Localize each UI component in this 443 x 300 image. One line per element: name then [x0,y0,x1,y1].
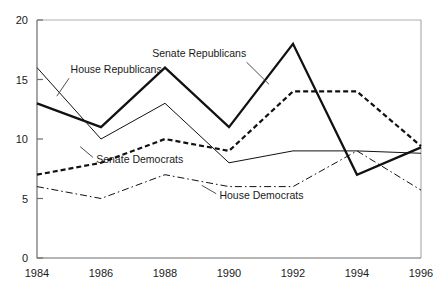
x-tick-label: 1990 [217,267,241,279]
y-tick-label: 10 [16,133,28,145]
chart-container: 05101520 1984198619881990199219941996 Ho… [0,0,443,300]
leader-house-democrats [202,185,216,193]
annotation-label: Senate Republicans [152,47,246,59]
x-tick-label: 1996 [409,267,433,279]
x-tick-label: 1988 [153,267,177,279]
series-line-house-republicans [37,68,421,163]
x-tick-label: 1992 [281,267,305,279]
y-tick-label: 15 [16,74,28,86]
y-tick-label: 5 [22,193,28,205]
y-tick-label: 0 [22,252,28,264]
x-tick-label: 1994 [345,267,369,279]
line-chart: 05101520 1984198619881990199219941996 Ho… [0,0,443,300]
annotation-leader-lines [57,62,269,194]
x-tick-label: 1986 [89,267,113,279]
annotation-label: Senate Democrats [96,153,183,165]
axis-tick-marks [37,20,43,258]
leader-house-republicans [57,78,69,96]
x-axis-tick-labels: 1984198619881990199219941996 [25,267,433,279]
y-axis-tick-labels: 05101520 [16,14,28,264]
leader-senate-republicans [247,62,269,84]
x-tick-label: 1984 [25,267,49,279]
leader-senate-democrats [80,147,93,158]
annotation-label: House Democrats [219,189,303,201]
y-tick-label: 20 [16,14,28,26]
annotation-label: House Republicans [71,63,162,75]
